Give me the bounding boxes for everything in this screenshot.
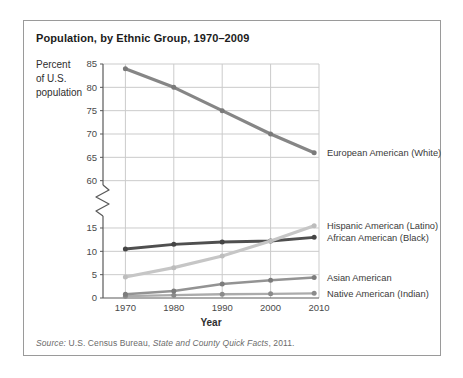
series-marker-asian-american-1980 [171, 288, 176, 293]
series-marker-european-american-white-1990 [220, 108, 225, 113]
legend-label-asian-american: Asian American [327, 273, 392, 283]
series-marker-asian-american-2000 [268, 278, 273, 283]
x-tick-label-1970: 1970 [115, 302, 136, 313]
series-marker-european-american-white-1970 [123, 66, 128, 71]
series-marker-european-american-white-1980 [171, 85, 176, 90]
figure-box: Population, by Ethnic Group, 1970–2009 P… [23, 20, 441, 356]
y-axis-break-icon [96, 185, 109, 216]
source-work-title: State and County Quick Facts [153, 338, 269, 348]
legend-label-african-american-black: African American (Black) [327, 233, 429, 243]
line-chart: 85807570656015105019701980199020002010Ye… [24, 21, 442, 357]
y-tick-label-65: 65 [86, 152, 97, 163]
series-marker-european-american-white-2000 [268, 132, 273, 137]
x-tick-label-1990: 1990 [212, 302, 233, 313]
y-tick-label-60: 60 [86, 175, 97, 186]
series-marker-native-american-indian-2009 [312, 291, 317, 296]
x-axis-title: Year [200, 317, 221, 328]
legend-label-hispanic-american-latino: Hispanic American (Latino) [327, 221, 438, 231]
series-marker-african-american-black-2009 [312, 235, 317, 240]
series-marker-hispanic-american-latino-2000 [268, 239, 273, 244]
series-marker-hispanic-american-latino-1980 [171, 265, 176, 270]
source-label: Source: [36, 338, 66, 348]
y-tick-label-75: 75 [86, 105, 97, 116]
legend-label-european-american-white: European American (White) [327, 148, 441, 158]
x-tick-label-2010: 2010 [308, 302, 329, 313]
legend-label-native-american-indian: Native American (Indian) [327, 289, 429, 299]
series-marker-hispanic-american-latino-1990 [220, 253, 225, 258]
y-tick-label-85: 85 [86, 58, 97, 69]
series-marker-african-american-black-1980 [171, 242, 176, 247]
series-marker-hispanic-american-latino-1970 [123, 274, 128, 279]
y-tick-label-15: 15 [86, 222, 97, 233]
series-marker-native-american-indian-2000 [268, 291, 273, 296]
series-marker-hispanic-american-latino-2009 [312, 223, 317, 228]
series-marker-african-american-black-1970 [123, 246, 128, 251]
y-tick-label-0: 0 [92, 292, 97, 303]
source-year: , 2011. [268, 338, 294, 348]
series-line-asian-american [125, 277, 314, 294]
series-marker-asian-american-2009 [312, 275, 317, 280]
x-tick-label-1980: 1980 [163, 302, 184, 313]
series-marker-african-american-black-1990 [220, 239, 225, 244]
y-tick-label-80: 80 [86, 82, 97, 93]
series-marker-native-american-indian-1990 [220, 292, 225, 297]
source-text: U.S. Census Bureau, [66, 338, 153, 348]
x-tick-label-2000: 2000 [260, 302, 281, 313]
series-marker-asian-american-1970 [123, 292, 128, 297]
series-line-african-american-black [125, 237, 314, 249]
series-marker-asian-american-1990 [220, 281, 225, 286]
screenshot-canvas: Population, by Ethnic Group, 1970–2009 P… [0, 0, 463, 378]
source-note: Source: U.S. Census Bureau, State and Co… [36, 338, 294, 348]
y-tick-label-10: 10 [86, 246, 97, 257]
series-marker-european-american-white-2009 [312, 150, 317, 155]
y-tick-label-70: 70 [86, 128, 97, 139]
y-tick-label-5: 5 [92, 269, 97, 280]
